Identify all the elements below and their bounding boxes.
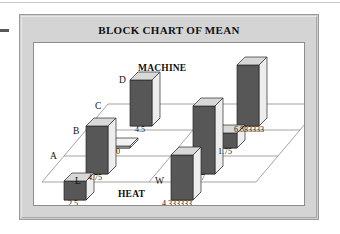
screenshot-root: BLOCK CHART OF MEAN — [0, 0, 340, 234]
bar-value-C-W: 1.75 — [218, 147, 232, 156]
axis-title-machine: MACHINE — [138, 63, 186, 73]
bar-value-B-W: 7 — [201, 173, 205, 182]
bar-value-C-L: 0 — [116, 147, 120, 156]
bar-D-W — [237, 57, 267, 126]
depth-category-C: C — [95, 101, 101, 111]
top-divider-rule — [0, 2, 340, 3]
depth-category-A: A — [50, 151, 57, 161]
bar-A-W — [171, 147, 201, 200]
left-edge-tick-mark — [0, 29, 9, 32]
depth-category-D: D — [119, 75, 126, 85]
bar-D-L — [130, 72, 160, 126]
bar-B-L — [86, 118, 116, 174]
bar-value-A-W: 4.333333 — [162, 199, 192, 206]
bar-value-B-L: 4.75 — [88, 173, 102, 182]
depth-category-B: B — [73, 126, 79, 136]
chart-title: BLOCK CHART OF MEAN — [19, 24, 319, 36]
bar-value-A-L: 2.5 — [68, 199, 78, 206]
bar-value-D-W: 6.833333 — [234, 125, 264, 134]
bar-value-D-L: 4.5 — [135, 125, 145, 134]
plot-panel: MACHINE HEAT A B C D L W 2.5 4.333333 4.… — [33, 42, 305, 206]
heat-category-L: L — [75, 176, 81, 186]
axis-title-heat: HEAT — [118, 189, 145, 199]
heat-category-W: W — [155, 176, 164, 186]
